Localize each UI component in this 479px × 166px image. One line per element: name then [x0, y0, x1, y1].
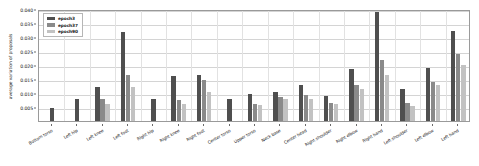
bar-group	[344, 11, 369, 121]
bar-group	[115, 11, 140, 121]
bar	[258, 105, 262, 121]
y-tick-mark	[34, 24, 36, 25]
legend-label: epoch90	[58, 29, 78, 34]
legend-item: epoch3	[47, 16, 78, 21]
legend-swatch-icon	[47, 23, 55, 26]
y-tick-label: 0.005	[20, 106, 33, 111]
x-tick-mark	[254, 124, 255, 126]
bar	[405, 103, 409, 121]
bar	[400, 89, 404, 121]
bar	[309, 99, 313, 121]
legend-swatch-icon	[47, 30, 55, 33]
legend-label: epoch3	[58, 16, 75, 21]
bar	[121, 32, 125, 121]
bar	[375, 12, 379, 121]
legend-label: epoch37	[58, 23, 78, 28]
bar	[182, 104, 186, 121]
x-tick-mark	[229, 124, 230, 126]
bar	[207, 92, 211, 121]
bar-chart-figure: average variation of proposals 0.0400.03…	[0, 0, 479, 166]
x-tick-mark	[457, 124, 458, 126]
bar	[273, 92, 277, 121]
y-tick-label: 0.025	[20, 50, 33, 55]
bar	[451, 31, 455, 121]
y-tick-label: 0.035	[20, 22, 33, 27]
bar-group	[90, 11, 115, 121]
bar-group	[395, 11, 420, 121]
bar	[299, 85, 303, 121]
x-tick-mark	[152, 124, 153, 126]
bar	[436, 85, 440, 121]
bar	[151, 99, 155, 121]
bar	[324, 96, 328, 121]
y-tick-mark	[34, 66, 36, 67]
y-tick-mark	[34, 80, 36, 81]
bar	[105, 104, 109, 121]
bar	[380, 60, 384, 121]
bar-group	[268, 11, 293, 121]
bar-group	[166, 11, 191, 121]
bar-group	[217, 11, 242, 121]
y-tick-label: 0.010	[20, 92, 33, 97]
x-tick-mark	[76, 124, 77, 126]
bar	[248, 94, 252, 121]
bar	[410, 106, 414, 121]
bar	[304, 95, 308, 121]
bar	[461, 65, 465, 121]
bar	[171, 76, 175, 121]
bar	[334, 104, 338, 121]
x-tick-mark	[203, 124, 204, 126]
bar	[431, 82, 435, 121]
x-tick-mark	[406, 124, 407, 126]
x-tick-mark	[102, 124, 103, 126]
x-tick-mark	[432, 124, 433, 126]
bar	[95, 87, 99, 121]
bar	[283, 99, 287, 121]
x-tick-mark	[127, 124, 128, 126]
bar	[360, 89, 364, 121]
bar-group	[293, 11, 318, 121]
bar-group	[369, 11, 394, 121]
bar	[177, 100, 181, 121]
y-tick-mark	[34, 52, 36, 53]
y-axis-ticks: 0.0400.0350.0300.0250.0200.0150.0100.005	[0, 10, 36, 122]
bar	[385, 75, 389, 121]
y-tick-mark	[34, 108, 36, 109]
bar	[75, 99, 79, 121]
bar-group	[319, 11, 344, 121]
y-tick-label: 0.015	[20, 78, 33, 83]
bar	[202, 80, 206, 121]
bar	[50, 108, 54, 121]
x-axis-ticks: Bottom torsoLeft hipLeft kneeLeft footRi…	[38, 124, 470, 166]
legend-swatch-icon	[47, 17, 55, 20]
bar-group	[191, 11, 216, 121]
y-tick-label: 0.020	[20, 64, 33, 69]
y-tick-mark	[34, 38, 36, 39]
y-tick-mark	[34, 10, 36, 11]
bar	[197, 75, 201, 121]
bar-group	[420, 11, 445, 121]
x-tick-mark	[51, 124, 52, 126]
bar	[278, 97, 282, 121]
x-tick-mark	[178, 124, 179, 126]
bar	[131, 87, 135, 121]
bar	[426, 68, 430, 121]
bar	[329, 103, 333, 121]
x-tick-mark	[330, 124, 331, 126]
y-tick-label: 0.030	[20, 36, 33, 41]
bar	[100, 99, 104, 121]
legend-item: epoch90	[47, 29, 78, 34]
x-tick-mark	[279, 124, 280, 126]
bar	[126, 75, 130, 121]
bar	[253, 104, 257, 121]
x-tick-mark	[305, 124, 306, 126]
bar-group	[446, 11, 470, 121]
bar	[227, 99, 231, 121]
bar-group	[141, 11, 166, 121]
bar	[349, 69, 353, 121]
chart-legend: epoch3epoch37epoch90	[43, 13, 83, 37]
bar	[354, 85, 358, 121]
y-tick-mark	[34, 94, 36, 95]
x-tick-mark	[356, 124, 357, 126]
legend-item: epoch37	[47, 23, 78, 28]
